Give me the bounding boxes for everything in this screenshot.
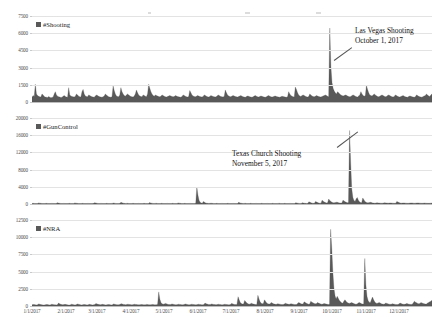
y-axis-tick-mark <box>30 50 32 51</box>
legend-nra: #NRA <box>36 225 60 232</box>
y-axis-tick-mark <box>30 135 32 136</box>
x-axis-tick-label: 2/1/2017 <box>58 308 75 314</box>
legend-swatch-icon <box>36 124 41 129</box>
y-axis-tick-label: 3000 <box>0 65 28 71</box>
y-axis-tick-mark <box>30 187 32 188</box>
x-axis-tick-label: 3/1/2017 <box>88 308 105 314</box>
panel-shooting: 015003000450060007500 #Shooting Las Vega… <box>0 14 439 110</box>
gridline <box>32 85 432 86</box>
legend-label-shooting: #Shooting <box>43 21 70 28</box>
gridline <box>32 254 432 255</box>
y-axis-tick-label: 0 <box>0 99 28 105</box>
x-axis-tick-label: 8/1/2017 <box>257 308 274 314</box>
y-axis-tick-label: 5000 <box>0 269 28 275</box>
x-axis-line <box>32 102 432 103</box>
y-axis-tick-label: 1500 <box>0 82 28 88</box>
x-axis-tick-label: 1/1/2017 <box>24 308 41 314</box>
x-axis-tick-label: 12/1/2017 <box>389 308 408 314</box>
y-axis-tick-mark <box>30 33 32 34</box>
x-axis-tick-label: 6/1/2017 <box>189 308 206 314</box>
y-axis-tick-label: 2500 <box>0 286 28 292</box>
x-axis-tick-label: 11/1/2017 <box>357 308 376 314</box>
xaxis-labels: 1/1/20172/1/20173/1/20174/1/20175/1/2017… <box>32 308 432 318</box>
y-axis-tick-label: 4000 <box>0 184 28 190</box>
x-axis-tick-label: 9/1/2017 <box>291 308 308 314</box>
y-axis-tick-mark <box>30 68 32 69</box>
annotation-texas-church: Texas Church Shooting November 5, 2017 <box>232 149 301 168</box>
y-axis-tick-label: 7500 <box>0 13 28 19</box>
x-axis-tick-label: 7/1/2017 <box>222 308 239 314</box>
y-axis-tick-mark <box>30 102 32 103</box>
x-axis-line <box>32 306 432 307</box>
y-axis-tick-label: 20000 <box>0 115 28 121</box>
legend-swatch-icon <box>36 22 41 27</box>
legend-shooting: #Shooting <box>36 21 70 28</box>
y-axis-tick-label: 7500 <box>0 251 28 257</box>
series-area-nra <box>32 220 432 306</box>
annotation-texas-church-line1: Texas Church Shooting <box>232 149 301 159</box>
plot-area-nra <box>32 220 432 306</box>
y-axis-tick-mark <box>30 204 32 205</box>
y-axis-tick-label: 0 <box>0 201 28 207</box>
gridline <box>32 170 432 171</box>
y-axis-tick-mark <box>30 272 32 273</box>
x-axis-tick-label: 10/1/2017 <box>322 308 341 314</box>
gridline <box>32 220 432 221</box>
y-axis-tick-label: 8000 <box>0 167 28 173</box>
gridline <box>32 135 432 136</box>
y-axis-tick-mark <box>30 16 32 17</box>
annotation-las-vegas-line2: October 1, 2017 <box>355 36 414 46</box>
y-axis-tick-label: 16000 <box>0 132 28 138</box>
y-axis-tick-mark <box>30 220 32 221</box>
legend-label-nra: #NRA <box>43 225 60 232</box>
y-axis-tick-mark <box>30 237 32 238</box>
y-axis-tick-mark <box>30 152 32 153</box>
legend-label-guncontrol: #GunControl <box>43 123 78 130</box>
y-axis-tick-mark <box>30 289 32 290</box>
gridline <box>32 272 432 273</box>
x-axis-tick-label: 4/1/2017 <box>122 308 139 314</box>
y-axis-tick-mark <box>30 254 32 255</box>
y-axis-tick-label: 12500 <box>0 217 28 223</box>
x-axis-tick-label: 5/1/2017 <box>155 308 172 314</box>
gridline <box>32 16 432 17</box>
y-axis-tick-label: 10000 <box>0 234 28 240</box>
legend-guncontrol: #GunControl <box>36 123 78 130</box>
gridline <box>32 68 432 69</box>
y-axis-tick-label: 6000 <box>0 30 28 36</box>
annotation-las-vegas: Las Vegas Shooting October 1, 2017 <box>355 26 414 45</box>
y-axis-tick-label: 4500 <box>0 47 28 53</box>
gridline <box>32 187 432 188</box>
series-path-nra <box>32 229 432 306</box>
panel-nra: 02500500075001000012500 #NRA 1/1/20172/1… <box>0 218 439 318</box>
panel-guncontrol: 040008000120001600020000 #GunControl Tex… <box>0 116 439 212</box>
gridline <box>32 118 432 119</box>
figure-root: 015003000450060007500 #Shooting Las Vega… <box>0 0 439 328</box>
annotation-las-vegas-line1: Las Vegas Shooting <box>355 26 414 36</box>
y-axis-tick-mark <box>30 85 32 86</box>
y-axis-tick-mark <box>30 118 32 119</box>
x-axis-line <box>32 204 432 205</box>
gridline <box>32 289 432 290</box>
annotation-texas-church-line2: November 5, 2017 <box>232 159 301 169</box>
legend-swatch-icon <box>36 226 41 231</box>
y-axis-tick-label: 12000 <box>0 149 28 155</box>
y-axis-tick-mark <box>30 170 32 171</box>
gridline <box>32 237 432 238</box>
y-axis-tick-mark <box>30 306 32 307</box>
gridline <box>32 50 432 51</box>
